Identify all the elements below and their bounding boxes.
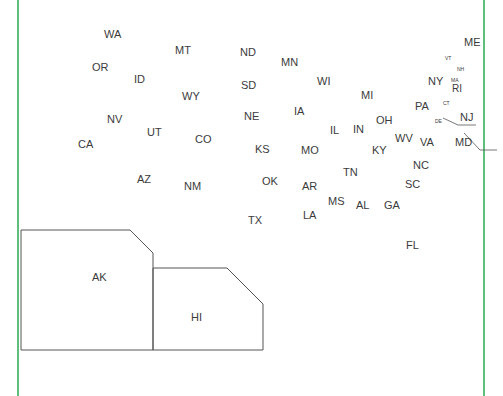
hawaii-inset-box	[153, 268, 263, 350]
state-label-tx: TX	[248, 215, 262, 226]
state-label-oh: OH	[376, 115, 393, 126]
state-label-fl: FL	[406, 240, 419, 251]
state-label-ca: CA	[78, 139, 93, 150]
state-label-co: CO	[195, 134, 212, 145]
state-label-wi: WI	[317, 76, 330, 87]
state-label-wy: WY	[182, 91, 200, 102]
state-label-mt: MT	[175, 45, 191, 56]
state-label-nd: ND	[240, 47, 256, 58]
state-label-or: OR	[92, 62, 109, 73]
state-label-ne: NE	[244, 111, 259, 122]
state-label-va: VA	[420, 137, 434, 148]
state-label-ri: RI	[452, 84, 462, 94]
state-label-ks: KS	[255, 144, 270, 155]
state-label-wv: WV	[395, 133, 413, 144]
state-label-sc: SC	[405, 179, 420, 190]
state-label-ar: AR	[302, 181, 317, 192]
state-label-ky: KY	[372, 145, 387, 156]
state-label-nj: NJ	[460, 112, 473, 123]
state-label-me: ME	[464, 37, 481, 48]
state-label-nh: NH	[457, 67, 464, 72]
state-label-ok: OK	[262, 176, 278, 187]
state-label-md: MD	[455, 137, 472, 148]
state-label-ny: NY	[428, 76, 443, 87]
state-label-in: IN	[353, 124, 364, 135]
state-label-ga: GA	[384, 200, 400, 211]
state-label-mo: MO	[301, 145, 319, 156]
state-label-al: AL	[356, 200, 369, 211]
state-label-de: DE	[435, 119, 442, 124]
state-label-ct: CT	[443, 101, 450, 106]
state-label-nc: NC	[413, 160, 429, 171]
state-label-la: LA	[303, 210, 316, 221]
state-label-il: IL	[330, 125, 339, 136]
state-label-hi: HI	[191, 312, 202, 323]
state-label-nv: NV	[107, 114, 122, 125]
state-label-sd: SD	[241, 80, 256, 91]
state-label-ia: IA	[294, 106, 304, 117]
state-label-mi: MI	[361, 90, 373, 101]
state-label-pa: PA	[415, 101, 429, 112]
state-label-az: AZ	[137, 174, 151, 185]
inset-boxes-and-leader-lines	[0, 0, 503, 396]
state-label-ms: MS	[328, 196, 345, 207]
state-label-id: ID	[134, 74, 145, 85]
alaska-inset-box	[21, 230, 153, 350]
state-label-vt: VT	[445, 56, 451, 61]
state-label-tn: TN	[343, 167, 358, 178]
state-label-ut: UT	[147, 127, 162, 138]
state-label-ak: AK	[92, 272, 107, 283]
state-label-wa: WA	[104, 29, 121, 40]
state-label-nm: NM	[184, 181, 201, 192]
state-label-mn: MN	[281, 57, 298, 68]
